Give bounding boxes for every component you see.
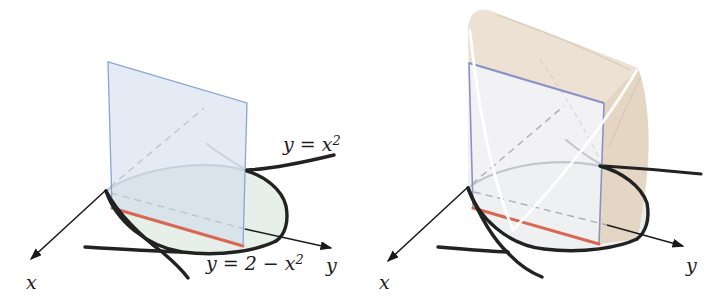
label-exponent: 2 [296, 252, 304, 267]
figure-canvas: y = x2 y = 2 − x2 x y x y [0, 0, 705, 298]
parabola-solid-diagram [0, 0, 705, 298]
parabola-y-2-x2-extension [438, 247, 508, 252]
right-diagram [388, 10, 701, 277]
label-y-equals-2-minus-x-squared: y = 2 − x2 [206, 254, 304, 273]
label-text: y = 2 − x [206, 252, 296, 274]
right-y-axis-label: y [686, 256, 697, 275]
left-diagram [31, 62, 334, 278]
left-y-axis-label: y [326, 256, 337, 275]
label-text: y = x [283, 133, 332, 155]
right-x-axis-label: x [379, 273, 390, 292]
left-x-axis-label: x [26, 273, 37, 292]
label-exponent: 2 [332, 133, 340, 148]
label-y-equals-x-squared: y = x2 [283, 135, 341, 154]
parabola-y-x2-line [247, 155, 334, 170]
